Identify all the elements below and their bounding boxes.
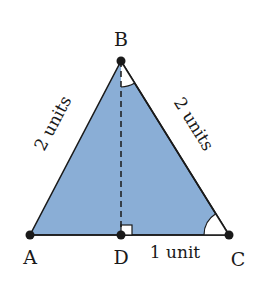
vertex-c-point xyxy=(225,231,234,240)
vertex-a-point xyxy=(26,231,35,240)
edge-label-dc: 1 unit xyxy=(150,242,201,262)
vertex-label-a: A xyxy=(22,246,37,268)
triangle-diagram: B A D C 2 units 2 units 1 unit xyxy=(0,0,264,283)
vertex-label-c: C xyxy=(231,248,246,270)
edge-label-ab: 2 units xyxy=(30,92,75,154)
vertex-b-point xyxy=(117,57,126,66)
vertex-label-d: D xyxy=(113,246,128,268)
vertex-d-point xyxy=(117,231,126,240)
vertex-label-b: B xyxy=(114,28,128,50)
edge-label-bc: 2 units xyxy=(170,93,218,154)
